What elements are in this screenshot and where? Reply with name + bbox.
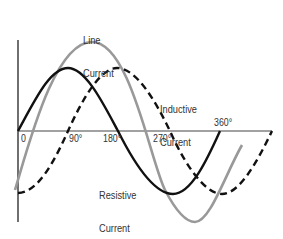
tick-270: 270° — [153, 134, 171, 144]
tick-360: 360° — [214, 118, 232, 128]
inductive-current-label-line1: Inductive — [160, 104, 197, 115]
tick-90: 90° — [69, 134, 82, 144]
resistive-current-label: Resistive Current — [99, 168, 136, 239]
resistive-current-label-line2: Current — [99, 223, 136, 234]
waveform-plot — [0, 0, 283, 239]
line-current-label: Line Current — [83, 13, 114, 101]
tick-180: 180° — [103, 134, 121, 144]
inductive-current-label: Inductive Current — [160, 82, 197, 170]
line-current-label-line2: Current — [83, 68, 114, 79]
tick-0: 0 — [21, 134, 26, 144]
line-current-label-line1: Line — [83, 35, 114, 46]
resistive-current-label-line1: Resistive — [99, 190, 136, 201]
current-phase-diagram: Line Current Inductive Current Resistive… — [0, 0, 283, 239]
